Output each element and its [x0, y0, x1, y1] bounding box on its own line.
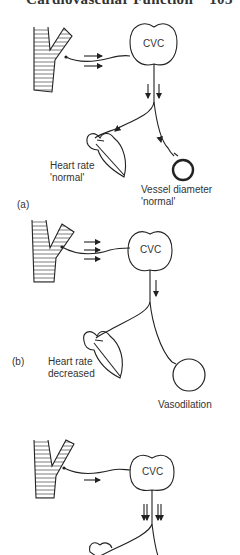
cvc-label-c: CVC	[142, 466, 163, 477]
heart-rate-label-b: Heart rate decreased	[48, 356, 95, 380]
carotid-sinus-icon	[34, 27, 72, 92]
cvc-label-a: CVC	[143, 38, 164, 49]
panel-label-a: (a)	[17, 199, 29, 211]
vessel-dilated-icon	[173, 359, 205, 391]
heart-icon	[90, 543, 112, 555]
cvc-label-b: CVC	[140, 244, 161, 255]
baroreflex-diagram	[0, 0, 240, 555]
carotid-sinus-collapsed-icon	[34, 440, 74, 498]
vasodilation-label: Vasodilation	[158, 399, 212, 411]
vessel-normal-icon	[173, 160, 193, 180]
vessel-label-a: Vessel diameter 'normal'	[141, 184, 212, 208]
carotid-sinus-distended-icon	[32, 220, 74, 282]
panel-label-b: (b)	[12, 356, 24, 368]
heart-rate-label-a: Heart rate 'normal'	[50, 160, 94, 184]
panel-a	[34, 24, 193, 180]
panel-c	[34, 440, 174, 555]
